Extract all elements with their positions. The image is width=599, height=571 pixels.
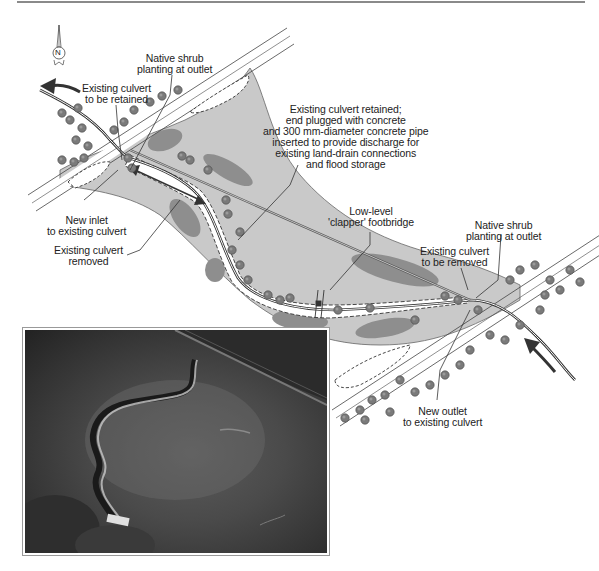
label-new-outlet: New outlet to existing culvert (403, 406, 482, 428)
label-new-inlet: New inlet to existing culvert (47, 215, 126, 237)
label-native-shrub-left: Native shrub planting at outlet (137, 53, 212, 75)
north-arrow-icon (53, 25, 65, 65)
label-existing-culvert-retained: Existing culvert to be retained (82, 83, 151, 105)
aerial-photo-image (25, 330, 327, 553)
label-clapper-footbridge: Low-level 'clapper' footbridge (328, 206, 414, 228)
aerial-photo (22, 327, 330, 556)
north-arrow-letter: N (55, 47, 61, 58)
label-culvert-plugged-note: Existing culvert retained; end plugged w… (263, 104, 428, 170)
flow-arrow-inlet (524, 338, 555, 372)
label-existing-culvert-removed: Existing culvert removed (54, 245, 123, 267)
label-native-shrub-right: Native shrub planting at outlet (466, 220, 541, 242)
label-existing-culvert-to-be-removed: Existing culvert to be removed (420, 246, 489, 268)
